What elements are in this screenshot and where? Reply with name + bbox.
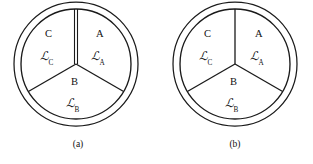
field-subscript: A: [259, 59, 264, 67]
script-s-glyph: ℒ: [91, 49, 100, 63]
field-label-c: ℒC: [40, 50, 54, 65]
field-subscript: C: [49, 59, 54, 67]
sector-letter-c: C: [204, 29, 211, 40]
script-s-glyph: ℒ: [40, 49, 49, 63]
divider-lower-left: [187, 64, 235, 92]
divider-lower-left: [28, 64, 76, 92]
sector-letter-b: B: [71, 77, 78, 88]
field-label-b: ℒB: [66, 97, 80, 112]
divider-lower-right: [76, 64, 124, 92]
field-label-a: ℒA: [250, 50, 264, 65]
field-label-b: ℒB: [225, 97, 239, 112]
script-s-glyph: ℒ: [225, 96, 234, 110]
field-subscript: B: [75, 106, 80, 114]
field-label-a: ℒA: [91, 50, 105, 65]
field-label-c: ℒC: [199, 50, 213, 65]
sector-letter-a: A: [255, 29, 263, 40]
panel-b: A B C ℒA ℒB ℒC (b): [157, 0, 313, 164]
panel-caption-a: (a): [0, 140, 156, 150]
sector-letter-a: A: [96, 29, 104, 40]
figure-root: A B C ℒA ℒB ℒC (a) A B C ℒA ℒB ℒC (b): [0, 0, 313, 164]
divider-lower-right: [235, 64, 283, 92]
panel-a: A B C ℒA ℒB ℒC (a): [0, 0, 156, 164]
script-s-glyph: ℒ: [66, 96, 75, 110]
field-subscript: C: [208, 59, 213, 67]
field-subscript: A: [100, 59, 105, 67]
panel-caption-b: (b): [157, 140, 313, 150]
script-s-glyph: ℒ: [199, 49, 208, 63]
field-subscript: B: [234, 106, 239, 114]
sector-letter-c: C: [45, 29, 52, 40]
sector-letter-b: B: [230, 77, 237, 88]
script-s-glyph: ℒ: [250, 49, 259, 63]
